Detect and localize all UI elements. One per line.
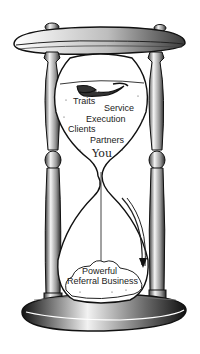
label-referral-business: Referral Business [67,277,138,286]
label-you: You [92,148,112,159]
label-traits: Traits [73,97,95,106]
right-pillar [148,52,166,300]
top-plate [14,23,185,54]
label-powerful: Powerful [82,267,117,276]
label-clients: Clients [68,125,96,134]
label-service: Service [104,104,134,113]
label-partners: Partners [90,136,124,145]
label-execution: Execution [86,115,126,124]
hourglass-illustration [0,0,200,354]
